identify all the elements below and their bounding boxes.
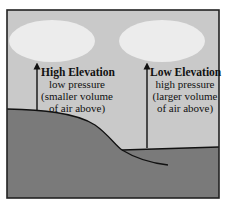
left-label-line3: of air above) (41, 102, 113, 114)
right-cloud (119, 20, 205, 62)
right-label-line1: high pressure (150, 78, 220, 90)
right-label-line2: (larger volume (150, 90, 220, 102)
right-label: Low Elevation high pressure (larger volu… (150, 66, 220, 114)
left-label-title: High Elevation (41, 66, 113, 78)
left-label-line2: (smaller volume (41, 90, 113, 102)
left-label: High Elevation low pressure (smaller vol… (41, 66, 113, 114)
right-label-line3: of air above) (150, 102, 220, 114)
left-cloud (9, 20, 95, 62)
left-label-line1: low pressure (41, 78, 113, 90)
right-label-title: Low Elevation (150, 66, 220, 78)
